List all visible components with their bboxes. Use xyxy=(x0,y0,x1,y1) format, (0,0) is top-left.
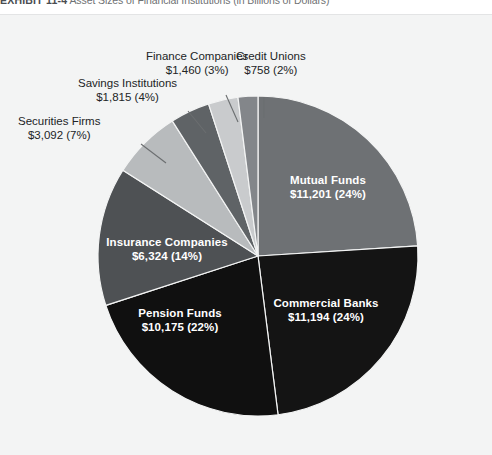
callout-securities-firms-name: Securities Firms xyxy=(18,115,100,129)
callout-savings-institutions-name: Savings Institutions xyxy=(78,77,177,91)
slice-label-pension-funds: Pension Funds $10,175 (22%) xyxy=(104,306,256,334)
slice-label-mutual-funds-name: Mutual Funds xyxy=(258,173,398,187)
callout-finance-companies-value: $1,460 (3%) xyxy=(146,64,248,78)
slice-label-insurance-companies: Insurance Companies $6,324 (14%) xyxy=(88,235,246,263)
slice-label-insurance-companies-value: $6,324 (14%) xyxy=(88,249,246,263)
callout-savings-institutions: Savings Institutions $1,815 (4%) xyxy=(78,77,177,104)
exhibit-caption-label: EXHIBIT 11-4 xyxy=(0,0,67,6)
callout-credit-unions-name: Credit Unions xyxy=(236,50,306,64)
figure-panel: Securities Firms $3,092 (7%) Savings Ins… xyxy=(0,14,492,455)
slice-label-pension-funds-name: Pension Funds xyxy=(104,306,256,320)
slice-label-commercial-banks-value: $11,194 (24%) xyxy=(250,310,402,324)
slice-label-mutual-funds-value: $11,201 (24%) xyxy=(258,187,398,201)
pie-chart: Securities Firms $3,092 (7%) Savings Ins… xyxy=(0,15,492,455)
slice-label-mutual-funds: Mutual Funds $11,201 (24%) xyxy=(258,173,398,201)
callout-securities-firms-value: $3,092 (7%) xyxy=(18,129,100,143)
slice-label-insurance-companies-name: Insurance Companies xyxy=(88,235,246,249)
exhibit-caption: EXHIBIT 11-4 Asset Sizes of Financial In… xyxy=(0,0,492,7)
pie-slice-commercial-banks xyxy=(258,246,418,415)
slice-label-commercial-banks-name: Commercial Banks xyxy=(250,296,402,310)
callout-finance-companies-name: Finance Companies xyxy=(146,50,248,64)
slice-label-pension-funds-value: $10,175 (22%) xyxy=(104,320,256,334)
callout-credit-unions-value: $758 (2%) xyxy=(236,64,306,78)
callout-securities-firms: Securities Firms $3,092 (7%) xyxy=(18,115,100,142)
slice-label-commercial-banks: Commercial Banks $11,194 (24%) xyxy=(250,296,402,324)
callout-finance-companies: Finance Companies $1,460 (3%) xyxy=(146,50,248,77)
exhibit-caption-text: Asset Sizes of Financial Institutions (i… xyxy=(69,0,329,6)
pie-chart-svg xyxy=(0,15,492,455)
callout-savings-institutions-value: $1,815 (4%) xyxy=(78,91,177,105)
callout-credit-unions: Credit Unions $758 (2%) xyxy=(236,50,306,77)
